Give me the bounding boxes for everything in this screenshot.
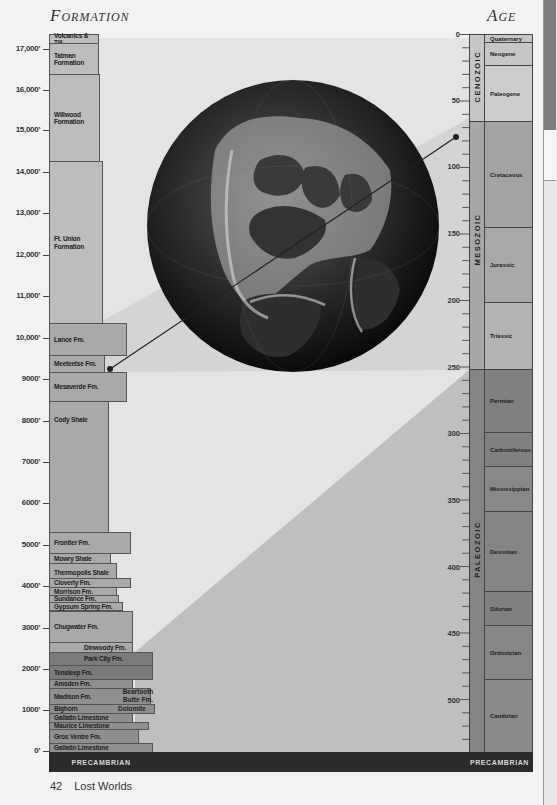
formation-label: Lance Fm. [54,336,84,343]
lower-wedge [135,370,469,752]
depth-tick-label: 6000' [0,498,40,507]
formation-tatman: Tatman Formation [49,43,99,75]
formation-label: Dinwoody Fm. [84,644,126,651]
period-label: Cretaceous [490,172,523,178]
formation-beartooth-butte: Beartooth Butte Fm. [121,688,155,704]
depth-tick-label: 2000' [0,664,40,673]
formation-label: Tensleep Fm. [54,669,93,676]
depth-tick-label: 3000' [0,623,40,632]
era-mesozoic: MESOZOIC [469,121,485,369]
formation-mesaverde: Mesaverde Fm. [49,372,127,402]
formation-lance: Lance Fm. [49,323,127,356]
precambrian-label: PRECAMBRIAN [71,759,130,766]
formation-label: Dolomite [118,705,146,712]
period-label: Carboniferous [490,447,531,453]
formation-label: Meeteetse Fm. [54,360,96,367]
period-label: Silurian [490,606,512,612]
depth-tick-label: 17,000' [0,44,40,53]
period-label: Jurassic [490,262,514,268]
depth-tick-label: 14,000' [0,167,40,176]
page-gutter-blank [544,130,556,181]
precambrian-label: PRECAMBRIAN [470,759,529,766]
formation-gypsum-spring: Gypsum Spring Fm. [49,602,123,611]
period-label: Quaternary [490,36,522,42]
formation-label: Cloverly Fm. [54,579,91,586]
paleogeography-globe [147,80,439,372]
depth-tick-label: 16,000' [0,85,40,94]
era-cenozoic: CENOZOIC [469,34,485,121]
formation-label: Beartooth Butte Fm. [123,688,154,703]
period-label: Neogene [490,51,515,57]
precambrian-band-middle [153,752,469,772]
period-carboniferous: Carboniferous [485,432,533,466]
depth-tick-label: 0' [0,746,40,755]
period-mississippian: Mississippian [485,466,533,511]
formation-label: Park City Fm. [84,655,123,662]
formation-frontier: Frontier Fm. [49,532,131,554]
period-devonian: Devonian [485,511,533,591]
period-jurassic: Jurassic [485,227,533,302]
formation-label: Gros Ventre Fm. [54,733,101,740]
formation-willwood: Willwood Formation [49,74,100,162]
period-permian: Permian [485,369,533,432]
period-label: Mississippian [490,486,529,492]
period-label: Ordovician [490,650,521,656]
formation-label: Chugwater Fm. [54,623,98,630]
period-label: Paleogene [490,91,520,97]
period-cretaceous: Cretaceous [485,121,533,227]
formation-label: Willwood Formation [54,111,90,126]
era-label: CENOZOIC [473,53,482,103]
period-ordovician: Ordovician [485,625,533,679]
depth-tick-label: 15,000' [0,125,40,134]
formation-label: Ft. Union Formation [54,235,90,250]
book-title: Lost Worlds [74,780,132,792]
formation-label: Gypsum Spring Fm. [54,603,112,610]
precambrian-band-right: PRECAMBRIAN [469,752,533,772]
age-column-right-border [532,34,533,752]
page-footer: 42Lost Worlds [50,780,144,792]
depth-tick-label: 12,000' [0,250,40,259]
depth-tick-label: 4000' [0,581,40,590]
formation-ft-union: Ft. Union Formation [49,161,103,324]
formation-label: Tatman Formation [54,52,88,67]
formation-label: Frontier Fm. [54,539,90,546]
formation-label: Mesaverde Fm. [54,383,98,390]
formation-label: Thermopolis Shale [54,569,109,576]
depth-tick-label: 5000' [0,540,40,549]
formation-park-city: Park City Fm. [49,652,153,666]
precambrian-band-left: PRECAMBRIAN [49,752,153,772]
period-paleogene: Paleogene [485,65,533,121]
formation-cody-shale: Cody Shale [49,401,109,533]
era-label: MESOZOIC [473,216,482,266]
period-label: Triassic [490,333,512,339]
formation-gros-ventre: Gros Ventre Fm. [49,729,139,744]
depth-tick-label: 11,000' [0,291,40,300]
period-cambrian: Cambrian [485,679,533,752]
period-label: Permian [490,398,514,404]
era-label: PALEOZOIC [473,521,482,579]
formation-label: Bighorn [54,705,78,712]
formation-meeteetse: Meeteetse Fm. [49,355,105,373]
formation-label: Cody Shale [54,416,87,423]
formation-label: Mowry Shale [54,555,92,562]
period-quaternary: Quaternary [485,34,533,42]
period-triassic: Triassic [485,302,533,369]
era-paleozoic: PALEOZOIC [469,369,485,752]
formation-label: Gallatin Limestone [54,714,109,721]
formation-dolomite: Dolomite [118,705,146,712]
age-tick-marks [455,30,470,752]
page-gutter-tab [544,0,556,130]
depth-tick-label: 7000' [0,457,40,466]
formation-tensleep: Tensleep Fm. [49,665,153,680]
formation-label: Gallatin Limestone [54,744,109,751]
depth-tick-label: 10,000' [0,333,40,342]
formation-chugwater: Chugwater Fm. [49,611,133,643]
depth-tick-label: 8000' [0,416,40,425]
period-neogene: Neogene [485,42,533,65]
depth-tick-label: 1000' [0,705,40,714]
page-number: 42 [50,780,62,792]
period-silurian: Silurian [485,591,533,625]
depth-tick-label: 13,000' [0,208,40,217]
formation-label: Madison Fm. [54,693,92,700]
depth-tick-label: 9000' [0,374,40,383]
